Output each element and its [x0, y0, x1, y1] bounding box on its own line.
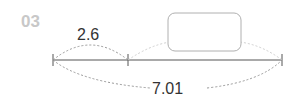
- unknown-arc-left: [128, 42, 170, 60]
- answer-box[interactable]: [168, 13, 241, 51]
- segment-diagram: 2.6 7.01: [0, 0, 297, 106]
- known-segment-label: 2.6: [77, 26, 99, 43]
- unknown-arc-right: [240, 42, 282, 60]
- total-length-label: 7.01: [152, 80, 183, 97]
- known-segment-arc: [53, 45, 128, 60]
- total-arc-left: [53, 60, 150, 88]
- total-arc-right: [207, 60, 282, 88]
